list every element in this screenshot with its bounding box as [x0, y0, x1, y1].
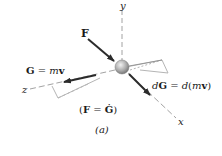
mass-symbol: m	[49, 65, 58, 76]
momentum-change-arrow	[129, 74, 150, 95]
figure-caption: (a)	[95, 125, 109, 135]
paren-close: )	[113, 104, 117, 115]
momentum-symbol: G	[158, 80, 167, 91]
velocity-symbol: v	[59, 65, 65, 76]
force-arrow	[88, 39, 114, 61]
plane-left	[52, 78, 100, 98]
equals: =	[35, 65, 50, 76]
newton-equation: (F = Ġ)	[79, 105, 117, 115]
particle-momentum-diagram	[0, 0, 222, 156]
force-symbol: F	[83, 104, 90, 115]
momentum-arrow	[64, 75, 96, 82]
ground-plane	[52, 60, 168, 98]
paren-close: )	[207, 80, 211, 91]
y-axis-label: y	[120, 1, 126, 11]
x-axis-label: x	[178, 117, 184, 127]
momentum-symbol: G	[26, 65, 35, 76]
particle-sphere	[115, 60, 129, 74]
equals: =	[90, 104, 105, 115]
z-axis-label: z	[22, 85, 27, 95]
plane-right	[126, 60, 168, 73]
momentum-label: G = mv	[26, 66, 65, 76]
mass-symbol: m	[192, 80, 201, 91]
equals: =	[167, 80, 182, 91]
momentum-change-label: dG = d(mv)	[152, 81, 211, 91]
force-label: F	[81, 28, 89, 39]
